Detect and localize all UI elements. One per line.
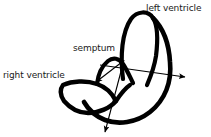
label-right-ventricle: right ventricle bbox=[3, 70, 65, 80]
label-left-ventricle: left ventricle bbox=[146, 3, 201, 13]
heart-sketch-drawing bbox=[0, 0, 211, 137]
heart-diagram-figure: left ventricle semptum right ventricle bbox=[0, 0, 211, 137]
label-semptum: semptum bbox=[73, 43, 115, 53]
septum-lower-junction bbox=[116, 85, 130, 101]
semptum-outline bbox=[97, 59, 133, 84]
